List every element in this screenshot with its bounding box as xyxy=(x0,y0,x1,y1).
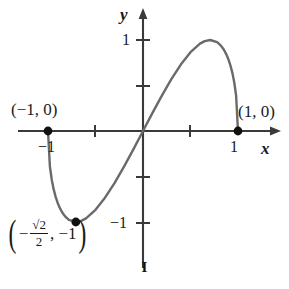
y-axis-label: y xyxy=(120,6,128,23)
x-axis-label: x xyxy=(261,140,270,157)
annotation-minimum-rest: , −1 xyxy=(50,225,77,242)
y-tick-label-1: 1 xyxy=(122,32,130,48)
annotation-minimum-minus: − xyxy=(19,225,29,242)
y-axis-arrowhead xyxy=(139,8,148,19)
annotation-minimum: ( − √2 2 , −1 ) xyxy=(6,218,89,249)
y-tick-label-neg1: −1 xyxy=(110,215,127,231)
annotation-minimum-numerator: √2 xyxy=(30,218,48,234)
annotation-minimum-open-paren: ( xyxy=(8,218,16,249)
annotation-right-intercept: (1, 0) xyxy=(238,103,275,120)
annotation-left-intercept: (−1, 0) xyxy=(11,101,57,118)
x-axis-arrowhead xyxy=(270,127,281,136)
figure-container: y x 1 −1 −1 1 (−1, 0) (1, 0) ( − √2 2 , … xyxy=(0,0,289,289)
point-right-intercept xyxy=(234,127,243,136)
annotation-minimum-denominator: 2 xyxy=(36,234,43,249)
annotation-minimum-close-paren: ) xyxy=(79,218,87,249)
figure-caption: I xyxy=(0,259,289,276)
x-tick-label-1: 1 xyxy=(230,139,238,155)
annotation-minimum-fraction: √2 2 xyxy=(30,218,48,249)
x-tick-label-neg1: −1 xyxy=(38,139,55,155)
point-left-intercept xyxy=(44,127,53,136)
